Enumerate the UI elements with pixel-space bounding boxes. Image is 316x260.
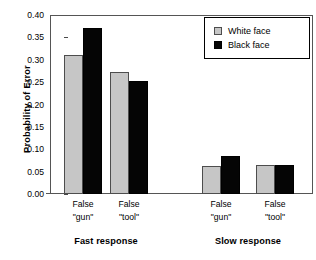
y-axis-tick-labels: 0.400.350.300.250.200.150.100.050.00 <box>14 15 44 194</box>
legend-label-white-face: White face <box>228 27 271 36</box>
x-axis-group-labels: Fast responseSlow response <box>50 236 313 252</box>
y-axis-tick-label: 0.30 <box>14 55 44 64</box>
y-axis-tick-label: 0.05 <box>14 167 44 176</box>
y-axis-tick-label: 0.35 <box>14 33 44 42</box>
x-axis-category-label-line2: "tool" <box>89 211 169 224</box>
legend-label-black-face: Black face <box>228 41 270 50</box>
bar-black-face <box>83 28 102 194</box>
x-axis-category-label: False"tool" <box>89 198 169 223</box>
y-axis-tick-label: 0.20 <box>14 100 44 109</box>
bar-white-face <box>202 166 221 194</box>
y-axis-tick-label: 0.00 <box>14 190 44 199</box>
bar-white-face <box>256 165 275 194</box>
x-axis-category-label-line2: "tool" <box>235 211 315 224</box>
bar-black-face <box>275 165 294 194</box>
x-axis-category-label-line1: False <box>210 199 231 209</box>
legend-swatch-white-face <box>214 27 222 35</box>
y-axis-tick-label: 0.25 <box>14 78 44 87</box>
y-axis-tick-label: 0.15 <box>14 123 44 132</box>
x-axis-category-labels: False"gun"False"tool"False"gun"False"too… <box>50 198 313 232</box>
bar-white-face <box>64 55 83 194</box>
bar-white-face <box>110 72 129 194</box>
y-axis-tick-label: 0.40 <box>14 11 44 20</box>
legend-swatch-black-face <box>214 41 222 49</box>
y-axis-tick-label: 0.10 <box>14 145 44 154</box>
x-axis-group-label: Slow response <box>193 236 303 246</box>
x-axis-category-label: False"tool" <box>235 198 315 223</box>
x-axis-group-label: Fast response <box>51 236 161 246</box>
x-axis-category-label-line1: False <box>118 199 139 209</box>
bar-black-face <box>129 81 148 194</box>
x-axis-category-label-line1: False <box>264 199 285 209</box>
legend: White face Black face <box>204 17 310 59</box>
legend-item-white-face: White face <box>205 24 309 38</box>
bar-chart-figure: Probability of Error 0.400.350.300.250.2… <box>0 0 316 260</box>
legend-item-black-face: Black face <box>205 38 309 52</box>
bar-black-face <box>221 156 240 194</box>
